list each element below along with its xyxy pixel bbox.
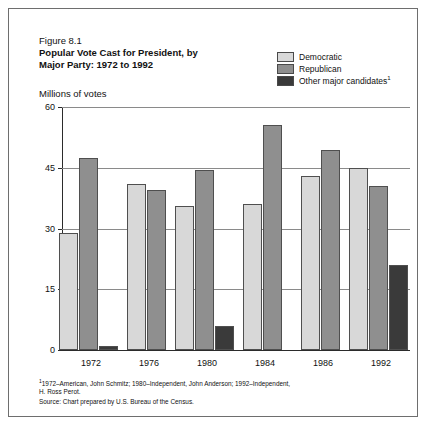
legend-item-republican: Republican — [277, 63, 426, 74]
figure-number: Figure 8.1 — [39, 35, 269, 47]
y-axis-label-45: 45 — [45, 163, 55, 172]
bar-1980-republican — [195, 170, 214, 350]
legend-swatch-republican — [277, 64, 294, 74]
legend-label-other-text: Other major candidates — [299, 76, 387, 86]
legend-item-democratic: Democratic — [277, 51, 426, 62]
bar-1976-democratic — [127, 184, 146, 350]
bar-1972-other-major-candidates — [99, 346, 118, 350]
bar-group-1976 — [127, 107, 166, 350]
bar-group-1992 — [349, 107, 408, 350]
y-axis-label-60: 60 — [45, 103, 55, 112]
bar-1992-republican — [369, 186, 388, 350]
bar-1992-democratic — [349, 168, 368, 350]
bar-1980-other-major-candidates — [215, 326, 234, 350]
x-axis-label-1972: 1972 — [62, 358, 120, 368]
legend-swatch-other — [277, 76, 294, 86]
figure-page: Figure 8.1 Popular Vote Cast for Preside… — [0, 0, 426, 425]
bar-1984-republican — [263, 125, 282, 350]
footnote-line-1: 11972–American, John Schmitz; 1980–Indep… — [39, 380, 394, 388]
y-tick-0 — [58, 350, 62, 351]
x-axis-label-1976: 1976 — [120, 358, 178, 368]
footnote-line-1-text: 1972–American, John Schmitz; 1980–Indepe… — [42, 380, 290, 387]
bar-1980-democratic — [175, 206, 194, 350]
footnote-line-2: H. Ross Perot. — [39, 388, 394, 396]
figure-title: Popular Vote Cast for President, by Majo… — [39, 47, 269, 71]
x-axis-label-1980: 1980 — [178, 358, 236, 368]
y-axis-unit-label: Millions of votes — [39, 88, 107, 100]
x-axis-line — [62, 350, 410, 351]
bar-1976-republican — [147, 190, 166, 350]
y-axis-label-0: 0 — [50, 346, 55, 355]
figure-footnotes: 11972–American, John Schmitz; 1980–Indep… — [39, 380, 394, 406]
bar-group-1972 — [59, 107, 118, 350]
bar-1972-republican — [79, 158, 98, 350]
x-axis-label-1984: 1984 — [236, 358, 294, 368]
legend-footnote-marker: 1 — [387, 75, 390, 81]
bar-1986-democratic — [301, 176, 320, 350]
figure-title-line-2: Major Party: 1972 to 1992 — [39, 59, 269, 71]
x-axis-label-1986: 1986 — [294, 358, 352, 368]
plot-area: 015304560 197219761980198419861992 — [62, 107, 410, 351]
bar-group-1980 — [175, 107, 234, 350]
bar-1984-democratic — [243, 204, 262, 350]
figure-title-line-1: Popular Vote Cast for President, by — [39, 47, 269, 59]
y-axis-label-15: 15 — [45, 285, 55, 294]
source-note: Source: Chart prepared by U.S. Bureau of… — [39, 398, 394, 406]
chart-legend: Democratic Republican Other major candid… — [277, 51, 426, 87]
legend-label-democratic: Democratic — [299, 52, 342, 62]
y-axis-label-30: 30 — [45, 224, 55, 233]
figure-border: Figure 8.1 Popular Vote Cast for Preside… — [8, 8, 418, 417]
figure-header: Figure 8.1 Popular Vote Cast for Preside… — [39, 35, 269, 71]
legend-swatch-democratic — [277, 52, 294, 62]
bar-1972-democratic — [59, 233, 78, 350]
x-axis-label-1992: 1992 — [352, 358, 410, 368]
legend-label-republican: Republican — [299, 64, 342, 74]
bar-1986-republican — [321, 150, 340, 350]
legend-item-other: Other major candidates1 — [277, 75, 426, 86]
legend-label-other: Other major candidates1 — [299, 76, 391, 86]
bar-group-1984 — [243, 107, 282, 350]
bar-1992-other-major-candidates — [389, 265, 408, 350]
bar-group-1986 — [301, 107, 340, 350]
